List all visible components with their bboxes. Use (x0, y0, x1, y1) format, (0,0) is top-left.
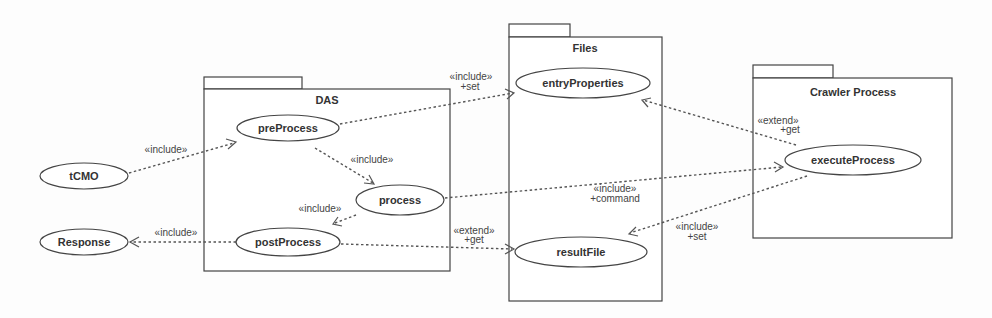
use-case-process[interactable]: process (356, 185, 444, 215)
relation-role: +set (687, 231, 706, 242)
use-case-label: process (379, 194, 421, 206)
package-title: Crawler Process (810, 86, 896, 98)
relation-stereotype: «include» (299, 203, 342, 214)
use-case-preprocess[interactable]: preProcess (237, 115, 339, 141)
relation-stereotype: «include» (145, 144, 188, 155)
relation-role: +get (780, 124, 800, 135)
package-tab (509, 24, 570, 37)
relation-stereotype: «include» (155, 227, 198, 238)
package-title: DAS (315, 94, 338, 106)
use-case-diagram: DAS Files Crawler Process «include» «inc… (0, 0, 992, 318)
use-case-label: preProcess (258, 122, 318, 134)
use-case-resultfile[interactable]: resultFile (515, 237, 647, 267)
relation-role: +set (460, 81, 479, 92)
package-title: Files (572, 42, 597, 54)
relation-role: +get (464, 234, 484, 245)
use-case-executeprocess[interactable]: executeProcess (785, 145, 921, 175)
use-case-tcmo[interactable]: tCMO (40, 163, 128, 189)
use-case-label: Response (58, 236, 111, 248)
use-case-postprocess[interactable]: postProcess (236, 228, 340, 256)
use-case-label: entryProperties (542, 77, 623, 89)
use-case-label: tCMO (69, 170, 99, 182)
package-tab (204, 77, 302, 89)
use-case-label: executeProcess (811, 154, 895, 166)
relation-stereotype: «include» (351, 154, 394, 165)
diagram-svg: DAS Files Crawler Process «include» «inc… (0, 0, 992, 318)
use-case-entryproperties[interactable]: entryProperties (516, 68, 650, 98)
package-tab (753, 65, 833, 78)
relation-role: +command (590, 193, 640, 204)
use-case-label: postProcess (255, 236, 321, 248)
use-case-response[interactable]: Response (40, 229, 128, 255)
use-case-label: resultFile (557, 246, 606, 258)
